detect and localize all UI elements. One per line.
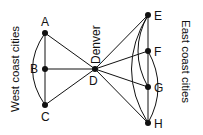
label-f: F xyxy=(154,45,161,59)
node-b xyxy=(42,66,48,72)
edge-a-d xyxy=(45,33,95,69)
label-g: G xyxy=(154,81,163,95)
west-coast-label: West coast cities xyxy=(9,26,21,112)
node-d xyxy=(92,66,98,72)
label-e: E xyxy=(154,9,162,23)
node-h xyxy=(145,120,151,126)
label-a: A xyxy=(41,15,49,29)
hub-label-denver: Denver xyxy=(89,25,103,64)
label-h: H xyxy=(154,117,163,131)
node-c xyxy=(42,102,48,108)
east-coast-label: East coast cities xyxy=(180,20,192,103)
edge-d-h xyxy=(95,69,148,123)
edge-e-h xyxy=(132,15,149,123)
label-c: C xyxy=(41,110,50,124)
label-b: B xyxy=(30,62,38,76)
node-f xyxy=(145,48,151,54)
edge-d-g xyxy=(95,69,148,87)
node-a xyxy=(42,30,48,36)
node-g xyxy=(145,84,151,90)
edge-c-d xyxy=(45,69,95,105)
node-e xyxy=(145,12,151,18)
graph-diagram: A B C D E F G H Denver West coast cities… xyxy=(0,0,203,135)
label-d: D xyxy=(89,74,98,88)
